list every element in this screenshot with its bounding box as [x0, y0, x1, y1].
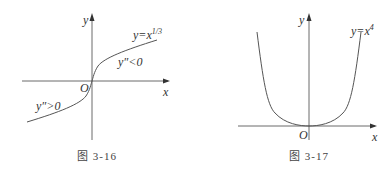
caption: 图 3-17 — [289, 147, 329, 163]
x-axis-label: x — [163, 86, 168, 98]
y-axis-label: y — [83, 14, 88, 26]
function-label: y=x4 — [351, 22, 374, 37]
x-axis-label: x — [372, 131, 377, 143]
origin-label: O — [80, 82, 89, 94]
y-axis-label: y — [299, 14, 304, 26]
function-label: y=x1/3 — [133, 26, 162, 41]
convex-region-label: y″>0 — [36, 100, 60, 112]
concave-region-label: y″<0 — [118, 56, 142, 68]
figure-3-17: y x O y=x4 图 3-17 — [195, 0, 390, 174]
origin-label: O — [299, 129, 308, 141]
caption: 图 3-16 — [77, 147, 117, 163]
figure-3-16: y x O y=x1/3 y″<0 y″>0 图 3-16 — [0, 0, 195, 174]
